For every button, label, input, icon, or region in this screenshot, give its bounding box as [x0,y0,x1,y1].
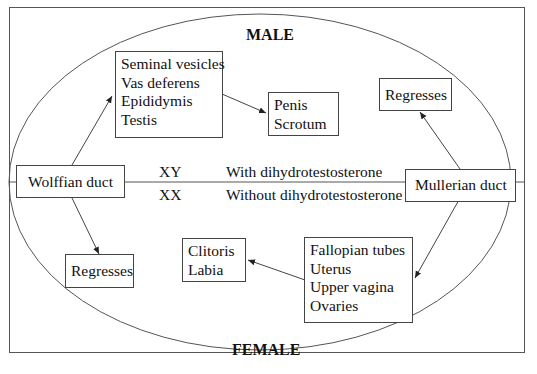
wolffian-duct-label: Wolffian duct [28,173,119,192]
male-derivatives-box: Seminal vesicles Vas deferens Epididymis… [115,51,223,138]
derivative-item: Fallopian tubes [310,241,407,260]
wolffian-duct-box: Wolffian duct [16,165,125,198]
arrow-mullerian-regress [420,112,460,169]
derivative-item: Vas deferens [121,74,217,93]
derivative-item: Testis [121,111,217,130]
external-item: Penis [274,96,333,115]
arrow-mullerian-to-female [415,198,460,278]
arrow-male-to-external [222,94,266,113]
wolffian-regresses-box: Regresses [65,254,134,288]
regresses-label: Regresses [71,262,128,281]
derivative-item: Seminal vesicles [121,55,217,74]
arrow-wolffian-regress [72,198,99,254]
condition-with-dht: With dihydrotestosterone [226,163,383,181]
external-male-box: Penis Scrotum [268,92,339,136]
mullerian-duct-box: Mullerian duct [405,169,516,202]
female-heading: FEMALE [232,341,300,359]
karyotype-xy: XY [159,163,181,181]
external-item: Clitoris [188,242,240,261]
regresses-label: Regresses [385,86,446,105]
derivative-item: Uterus [310,260,407,279]
derivative-item: Epididymis [121,92,217,111]
condition-without-dht: Without dihydrotestosterone [226,186,402,204]
derivative-item: Ovaries [310,297,407,316]
female-derivatives-box: Fallopian tubes Uterus Upper vagina Ovar… [304,237,413,323]
mullerian-regresses-box: Regresses [379,78,452,111]
mullerian-duct-label: Mullerian duct [415,176,510,195]
external-item: Labia [188,261,240,280]
male-heading: MALE [246,26,294,44]
arrow-wolffian-to-male [72,96,112,165]
external-female-box: Clitoris Labia [182,238,246,282]
karyotype-xx: XX [159,186,181,204]
arrow-female-to-external [248,260,305,280]
external-item: Scrotum [274,115,333,134]
derivative-item: Upper vagina [310,278,407,297]
